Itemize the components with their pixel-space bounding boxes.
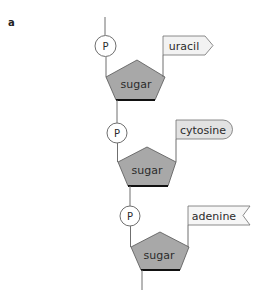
sugar-label: sugar xyxy=(121,78,152,91)
sugar-label: sugar xyxy=(144,249,175,262)
rna-strand-diagram: P sugar uracil P sugar cytosine P sugar … xyxy=(0,0,265,295)
base-label: uracil xyxy=(169,40,199,53)
base-label: adenine xyxy=(192,210,236,223)
base-label: cytosine xyxy=(180,124,226,137)
nucleotide-2: P sugar cytosine xyxy=(107,100,233,186)
nucleotide-3: P sugar adenine xyxy=(120,186,250,290)
phosphate-label: P xyxy=(127,211,133,222)
phosphate-label: P xyxy=(102,41,108,52)
sugar-label: sugar xyxy=(132,164,163,177)
nucleotide-1: P sugar uracil xyxy=(95,17,213,100)
phosphate-label: P xyxy=(114,128,120,139)
